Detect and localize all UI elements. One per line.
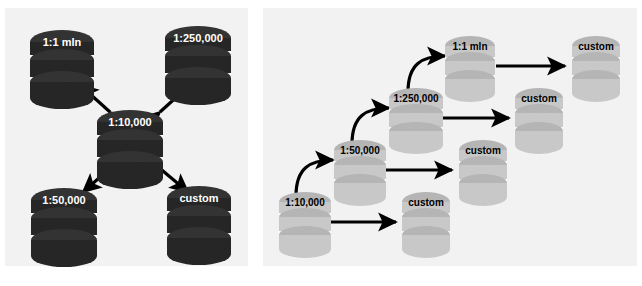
node-1-50-000[interactable]: 1:50,000 xyxy=(22,186,106,268)
node-custom-left[interactable]: custom xyxy=(158,184,240,266)
diagram-canvas: 1:1 mln 1:250,000 xyxy=(0,0,642,286)
node-1-250-000[interactable]: 1:250,000 xyxy=(156,24,240,106)
node-custom-row-3[interactable]: custom xyxy=(565,34,627,104)
node-chain-1-1-mln[interactable]: 1:1 mln xyxy=(438,34,502,104)
node-custom-row-1[interactable]: custom xyxy=(452,138,514,208)
node-custom-row-0[interactable]: custom xyxy=(395,190,457,260)
node-1-1-mln[interactable]: 1:1 mln xyxy=(22,28,102,110)
node-custom-row-2[interactable]: custom xyxy=(508,86,570,156)
node-1-10-000-center[interactable]: 1:10,000 xyxy=(88,108,172,190)
